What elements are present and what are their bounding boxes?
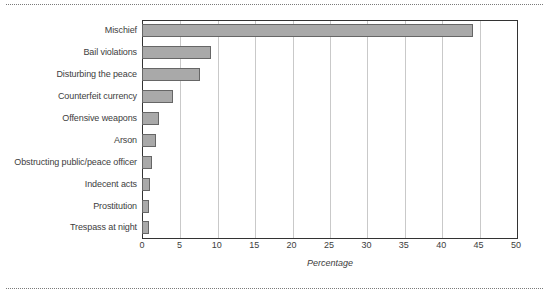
category-label: Prostitution (0, 195, 137, 217)
bar (142, 178, 150, 191)
bar-row (142, 64, 518, 86)
bar-row (142, 86, 518, 108)
bar-row (142, 129, 518, 151)
x-tick-label: 25 (324, 241, 334, 250)
category-label: Indecent acts (0, 173, 137, 195)
x-axis-tick-labels: 05101520253035404550 (142, 241, 518, 257)
bar (142, 134, 156, 147)
bar-chart: MischiefBail violationsDisturbing the pe… (0, 14, 549, 276)
x-tick-label: 0 (139, 241, 144, 250)
x-tick-label: 5 (177, 241, 182, 250)
category-label: Trespass at night (0, 217, 137, 239)
category-axis-labels: MischiefBail violationsDisturbing the pe… (0, 20, 137, 239)
category-label: Disturbing the peace (0, 64, 137, 86)
bar-row (142, 20, 518, 42)
category-label: Obstructing public/peace officer (0, 151, 137, 173)
bar (142, 200, 149, 213)
category-label: Bail violations (0, 42, 137, 64)
x-axis-title: Percentage (142, 258, 518, 268)
x-tick-label: 40 (436, 241, 446, 250)
x-tick-label: 35 (399, 241, 409, 250)
category-label: Mischief (0, 20, 137, 42)
bar (142, 221, 149, 234)
category-label: Counterfeit currency (0, 86, 137, 108)
x-tick-label: 20 (287, 241, 297, 250)
bar-series (142, 20, 518, 239)
bar (142, 156, 152, 169)
category-label: Offensive weapons (0, 108, 137, 130)
x-tick-label: 50 (511, 241, 521, 250)
x-tick-label: 45 (474, 241, 484, 250)
bar-row (142, 42, 518, 64)
top-dotted-rule (6, 4, 543, 5)
bar (142, 24, 473, 37)
x-tick-label: 10 (212, 241, 222, 250)
x-tick-label: 30 (361, 241, 371, 250)
bar (142, 46, 211, 59)
figure: MischiefBail violationsDisturbing the pe… (0, 0, 549, 296)
bottom-dotted-rule (6, 288, 543, 289)
bar (142, 90, 173, 103)
bar-row (142, 151, 518, 173)
bar-row (142, 108, 518, 130)
x-tick-label: 15 (249, 241, 259, 250)
bar (142, 68, 200, 81)
bar-row (142, 173, 518, 195)
bar-row (142, 217, 518, 239)
bar (142, 112, 159, 125)
bar-row (142, 195, 518, 217)
category-label: Arson (0, 129, 137, 151)
